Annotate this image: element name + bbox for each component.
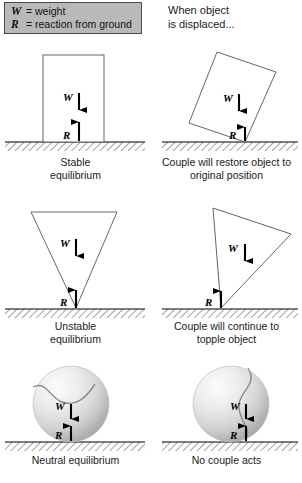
panel-neutral-displaced: W R No couple acts [151,362,302,483]
displaced-note-line1: When object [168,3,235,17]
reaction-label: R [204,296,212,308]
legend-symbol-r: R [11,18,23,31]
legend-equals-1: = [23,5,35,18]
caption-line-2: equilibrium [0,333,151,346]
legend-row-weight: W = weight [11,5,141,18]
panel-stable-displaced: W R Couple will restore object to origin… [151,38,302,198]
reaction-label: R [228,129,236,141]
caption-unstable-equilibrium: Unstable equilibrium [0,320,151,345]
legend-symbol-w: W [11,5,23,18]
weight-label: W [230,400,241,412]
caption-line-2: equilibrium [0,169,151,182]
object-inverted-triangle-tilted [213,208,291,308]
art-stable-equilibrium: W R [0,38,151,156]
weight-label: W [55,400,66,412]
reaction-label: R [59,296,67,308]
object-inverted-triangle [31,212,117,308]
ground-hatch [162,442,298,451]
ground-hatch [5,309,145,318]
ground-hatch [162,309,298,318]
legend-box: W = weight R = reaction from ground [4,2,142,34]
caption-line-1: No couple acts [151,454,302,467]
panel-unstable-equilibrium: W R Unstable equilibrium [0,198,151,362]
reaction-label: R [62,129,70,141]
legend-equals-2: = [23,18,35,31]
ground-hatch [5,442,145,451]
weight-label: W [63,91,74,103]
caption-line-2: original position [151,169,302,182]
legend-row-reaction: R = reaction from ground [11,18,141,31]
caption-line-1: Unstable [0,320,151,333]
caption-line-1: Stable [0,156,151,169]
art-stable-displaced: W R [151,38,302,156]
caption-neutral-equilibrium: Neutral equilibrium [0,454,151,467]
diagram-canvas: W = weight R = reaction from ground When… [0,0,302,483]
art-neutral-equilibrium: W R [0,362,151,454]
caption-line-2: topple object [151,333,302,346]
reaction-label: R [54,429,62,441]
art-unstable-equilibrium: W R [0,198,151,320]
object-rectangle [43,55,104,142]
ground-hatch [162,142,298,151]
weight-label: W [60,237,71,249]
panel-stable-equilibrium: W R Stable equilibrium [0,38,151,198]
caption-line-1: Couple will continue to [151,320,302,333]
art-unstable-displaced: W R [151,198,302,320]
caption-stable-equilibrium: Stable equilibrium [0,156,151,181]
reaction-label: R [229,429,237,441]
weight-label: W [228,242,239,254]
legend-text-reaction: reaction from ground [35,18,132,31]
ground-hatch [5,142,145,151]
panel-unstable-displaced: W R Couple will continue to topple objec… [151,198,302,362]
caption-neutral-displaced: No couple acts [151,454,302,467]
art-neutral-displaced: W R [151,362,302,454]
legend-text-weight: weight [35,5,65,18]
caption-stable-displaced: Couple will restore object to original p… [151,156,302,181]
caption-unstable-displaced: Couple will continue to topple object [151,320,302,345]
caption-line-1: Neutral equilibrium [0,454,151,467]
displaced-note: When object is displaced... [168,3,235,31]
panel-neutral-equilibrium: W R Neutral equilibrium [0,362,151,483]
weight-label: W [223,92,234,104]
caption-line-1: Couple will restore object to [151,156,302,169]
displaced-note-line2: is displaced... [168,17,235,31]
